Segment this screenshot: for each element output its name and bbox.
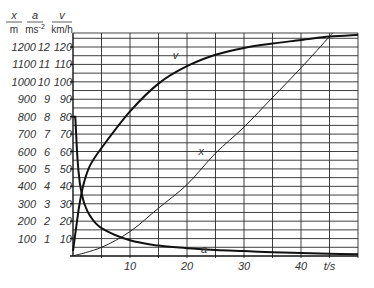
y-tick-a: 5 — [44, 163, 51, 175]
y-tick-a: 10 — [38, 76, 51, 88]
y-tick-a: 6 — [44, 146, 51, 158]
y-tick-x-m: 800 — [18, 111, 37, 123]
y-tick-x-m: 500 — [18, 163, 37, 175]
y-header-unit: m — [10, 24, 18, 35]
y-tick-x-m: 1000 — [12, 76, 37, 88]
y-tick-x-m: 900 — [18, 93, 37, 105]
chart-grid — [73, 33, 358, 258]
curve-label-a: a — [201, 243, 207, 255]
y-tick-a: 8 — [44, 111, 51, 123]
y-tick-x-m: 1200 — [12, 41, 37, 53]
y-tick-x-m: 200 — [17, 215, 37, 227]
y-header-unit: km/h — [51, 24, 73, 35]
y-tick-x-m: 400 — [18, 180, 37, 192]
y-tick-v: 120 — [54, 41, 73, 53]
y-tick-a: 12 — [38, 41, 50, 53]
curve-label-x: x — [198, 145, 205, 157]
y-tick-a: 7 — [44, 128, 51, 140]
y-tick-a: 9 — [44, 93, 50, 105]
y-header-symbol-a: a — [32, 9, 38, 21]
y-tick-a: 2 — [43, 215, 50, 227]
curve-label-v: v — [173, 49, 180, 61]
velocity-acceleration-distance-chart: 1001102002203003304004405005506006607007… — [0, 0, 374, 288]
y-header-unit: ms-2 — [25, 23, 45, 35]
y-header-symbol-v: v — [59, 9, 66, 21]
x-tick-label: 30 — [238, 260, 251, 272]
y-tick-x-m: 300 — [18, 198, 37, 210]
chart-axes — [70, 33, 358, 256]
y-tick-x-m: 100 — [18, 233, 37, 245]
y-tick-a: 3 — [44, 198, 51, 210]
x-tick-label: 40 — [295, 260, 308, 272]
x-tick-label: 20 — [180, 260, 194, 272]
x-axis-labels: 10203040t/s — [124, 260, 336, 272]
y-header-symbol-x: x — [10, 9, 17, 21]
y-tick-a: 1 — [44, 233, 50, 245]
y-tick-a: 4 — [44, 180, 50, 192]
y-tick-a: 11 — [39, 58, 50, 70]
y-tick-x-m: 700 — [18, 128, 37, 140]
x-tick-label: 10 — [124, 260, 137, 272]
x-axis-title: t/s — [324, 260, 336, 272]
y-tick-v: 100 — [54, 76, 73, 88]
y-axis-labels: 1001102002203003304004405005506006607007… — [6, 9, 73, 245]
y-tick-x-m: 1100 — [12, 58, 37, 70]
y-tick-x-m: 600 — [18, 146, 37, 158]
